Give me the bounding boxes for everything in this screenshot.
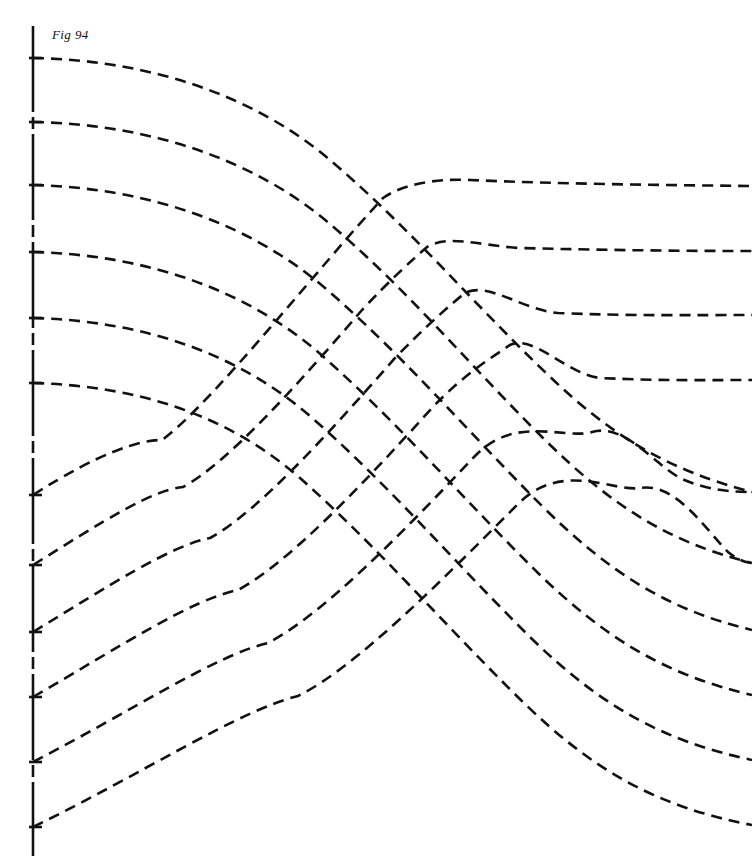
figure-caption: Fig 94 [52,27,89,43]
figure-container: Fig 94 [0,0,752,864]
figure-line-drawing [0,0,752,864]
